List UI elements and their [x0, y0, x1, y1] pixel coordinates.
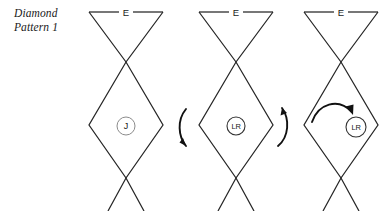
figure-3-strand-right [304, 12, 378, 211]
figure-3-strand-left [304, 12, 378, 211]
rotation-arrow-right [278, 108, 287, 146]
rotation-arrow-left [180, 109, 187, 146]
figure-3: E LR [304, 7, 378, 212]
figure-1-strand-right [89, 12, 163, 211]
figure-1-edge-label: E [123, 7, 129, 18]
figure-2-strand-left [199, 12, 273, 211]
figure-1-marker-label: J [124, 121, 129, 131]
diamond-pattern-figures: E J E LR [0, 0, 389, 211]
figure-3-edge-label: E [338, 7, 344, 18]
figure-2-edge-label: E [233, 7, 239, 18]
diagram-canvas: Diamond Pattern 1 E J E LR [0, 0, 389, 211]
figure-1-strand-left [89, 12, 163, 211]
rotation-arrow-over [312, 104, 354, 122]
figure-2-marker-label: LR [231, 122, 241, 131]
figure-3-marker-label: LR [351, 123, 361, 132]
figure-2-strand-right [199, 12, 273, 211]
figure-1: E J [89, 7, 163, 212]
figure-2: E LR [180, 7, 288, 212]
